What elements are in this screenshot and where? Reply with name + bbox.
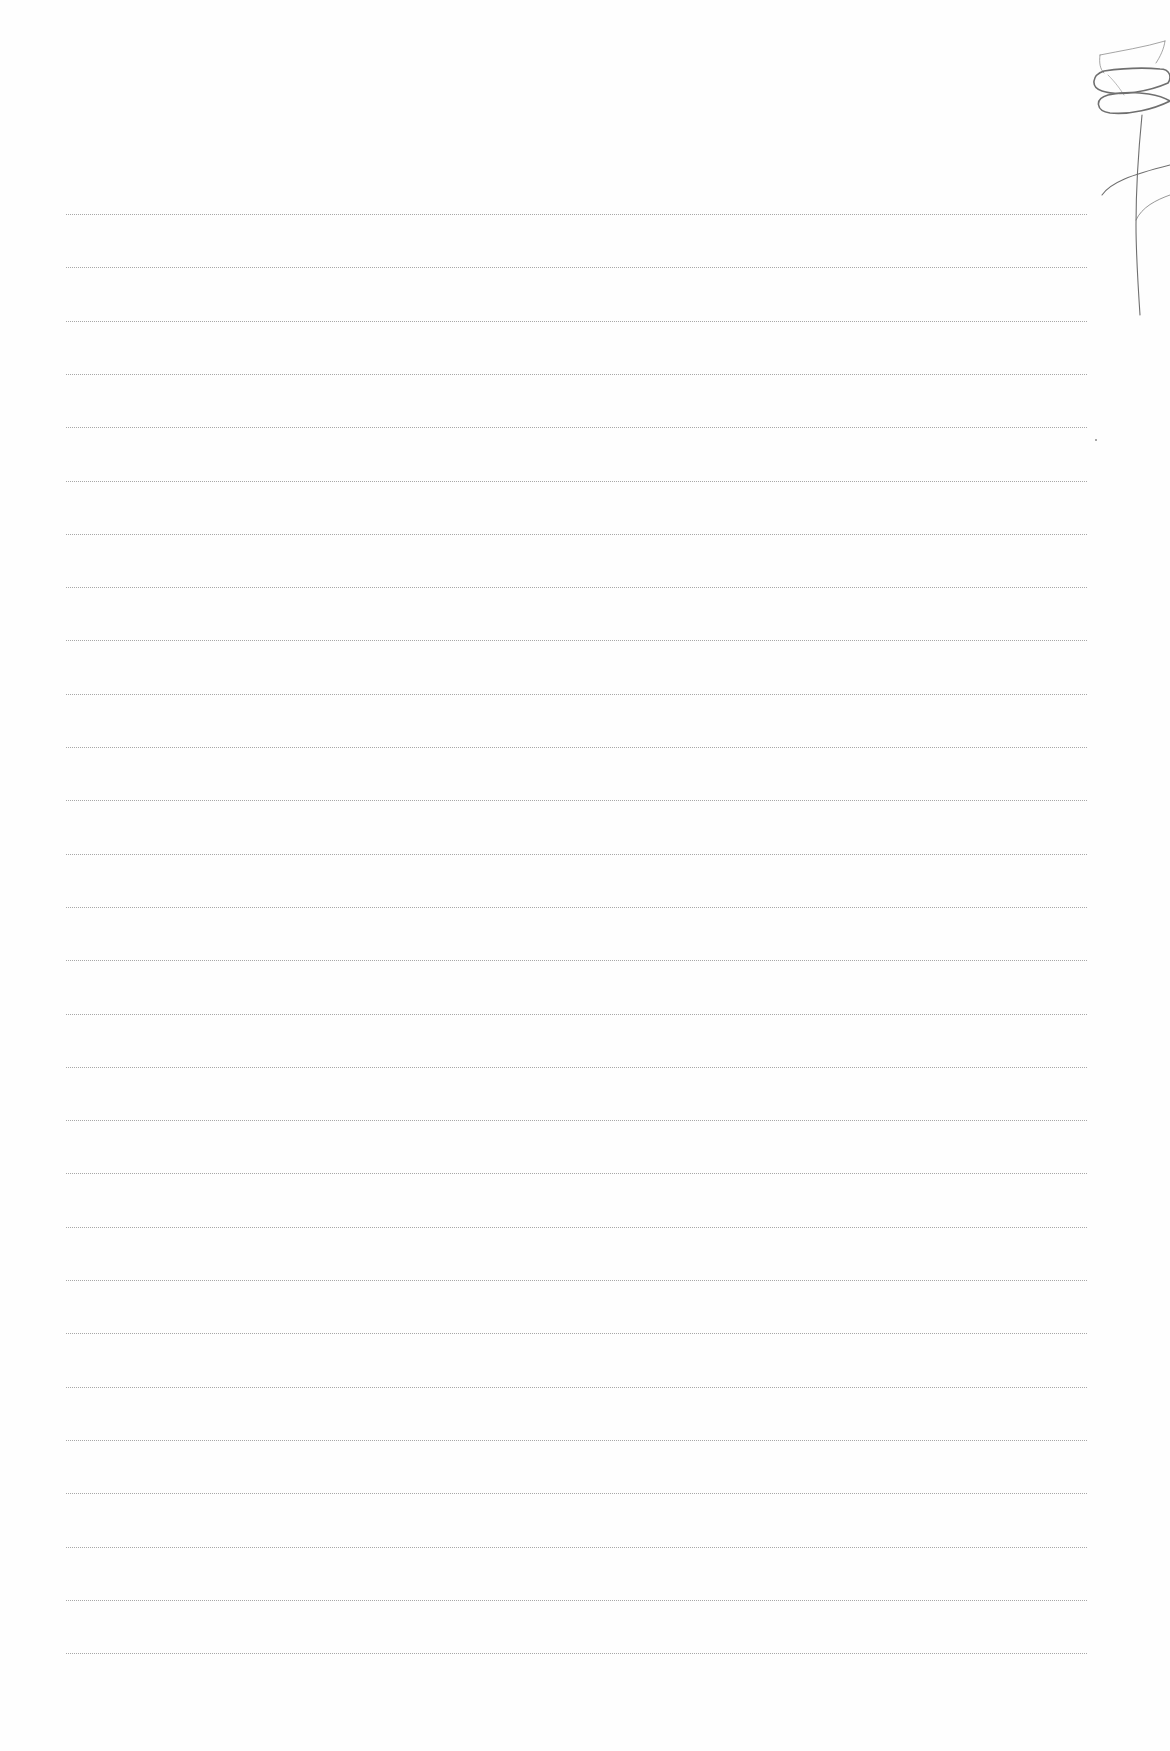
ruled-line [66, 481, 1087, 482]
ruled-line [66, 214, 1087, 215]
ruled-line [66, 1493, 1087, 1494]
ruled-line [66, 1173, 1087, 1174]
ruled-line [66, 427, 1087, 428]
ruled-line [66, 854, 1087, 855]
ruled-line [66, 267, 1087, 268]
flower-sketch-icon [1090, 25, 1170, 325]
ruled-line [66, 1333, 1087, 1334]
ruled-line [66, 1067, 1087, 1068]
ruled-line [66, 694, 1087, 695]
ruled-line [66, 1387, 1087, 1388]
ruled-line [66, 1600, 1087, 1601]
ruled-line [66, 1653, 1087, 1654]
ruled-line [66, 1440, 1087, 1441]
ruled-line [66, 1280, 1087, 1281]
ruled-line [66, 800, 1087, 801]
notebook-page [0, 0, 1170, 1751]
ruled-line [66, 587, 1087, 588]
ruled-line [66, 907, 1087, 908]
ruled-line [66, 1547, 1087, 1548]
ruled-line [66, 1120, 1087, 1121]
ruled-line [66, 321, 1087, 322]
ruled-line [66, 534, 1087, 535]
ruled-line [66, 640, 1087, 641]
ruled-line [66, 374, 1087, 375]
ruled-line [66, 747, 1087, 748]
ruled-line [66, 1227, 1087, 1228]
paper-speck [1095, 439, 1097, 441]
ruled-line [66, 960, 1087, 961]
ruled-line [66, 1014, 1087, 1015]
